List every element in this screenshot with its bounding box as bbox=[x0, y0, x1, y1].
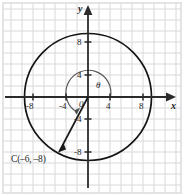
x-tick-label-neg8: -8 bbox=[26, 102, 34, 111]
origin-label: 0 bbox=[79, 100, 84, 109]
x-tick-label-neg4: -4 bbox=[59, 102, 67, 111]
graph-figure: -8 -4 4 8 8 4 -4 -8 0 x y θ C(–6, –8) bbox=[0, 0, 184, 196]
y-tick-label-neg8: -8 bbox=[74, 148, 82, 157]
angle-theta-label: θ bbox=[96, 81, 100, 90]
x-axis-label: x bbox=[171, 101, 176, 111]
y-axis-label: y bbox=[78, 4, 82, 14]
y-tick-label-4: 4 bbox=[77, 71, 82, 80]
point-label-c: C(–6, –8) bbox=[11, 155, 46, 165]
x-tick-label-8: 8 bbox=[139, 102, 144, 111]
coordinate-plane-svg bbox=[0, 0, 184, 196]
x-tick-label-4: 4 bbox=[106, 102, 111, 111]
y-tick-label-neg4: -4 bbox=[74, 115, 82, 124]
y-tick-label-8: 8 bbox=[77, 38, 82, 47]
